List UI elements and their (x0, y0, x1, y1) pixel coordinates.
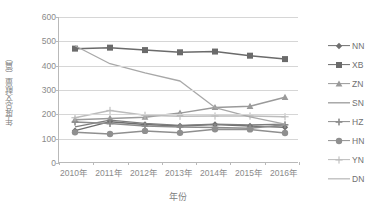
y-axis-tick-label: 400 (14, 62, 56, 70)
legend-item-yn[interactable]: YN (328, 150, 380, 169)
y-axis-tick-mark (56, 66, 59, 67)
legend-item-label: XB (350, 60, 363, 70)
data-point (106, 107, 113, 114)
legend-item-xb[interactable]: XB (328, 55, 380, 74)
x-axis-tick-label: 2010年 (60, 166, 88, 178)
legend: NNXBZNSNHZHNYNDN (328, 36, 380, 188)
x-axis-tick-label: 2014年 (200, 166, 228, 178)
data-point (247, 126, 253, 132)
gridline (59, 90, 298, 91)
data-point (212, 126, 218, 132)
legend-marker-icon (328, 135, 350, 147)
x-axis-tick-mark (93, 162, 94, 165)
data-point (282, 94, 289, 100)
line-chart: 年度总文献量（篇） 0100200300400500600 2010年2011年… (0, 0, 381, 218)
legend-marker-icon (328, 173, 350, 185)
x-axis-tick-mark (265, 162, 266, 165)
legend-marker-icon (328, 78, 350, 90)
legend-item-label: NN (350, 41, 364, 51)
data-point (177, 130, 183, 136)
legend-item-label: YN (350, 155, 364, 165)
legend-item-hn[interactable]: HN (328, 131, 380, 150)
legend-marker-icon (328, 40, 350, 52)
y-axis-tick-labels: 0100200300400500600 (14, 0, 56, 218)
data-point (107, 131, 113, 137)
data-point (212, 49, 218, 55)
x-axis-tick-label: 2012年 (130, 166, 158, 178)
x-axis-tick-label: 2011年 (95, 166, 122, 178)
x-axis-tick-label: 2015年 (235, 166, 263, 178)
legend-marker-icon (328, 116, 350, 128)
y-axis-tick-label: 500 (14, 37, 56, 45)
x-axis-tick-mark (128, 162, 129, 165)
data-point (282, 130, 288, 136)
legend-item-dn[interactable]: DN (328, 169, 380, 188)
x-axis-tick-mark (196, 162, 197, 165)
legend-item-sn[interactable]: SN (328, 93, 380, 112)
data-point (282, 56, 288, 62)
y-axis-tick-mark (56, 114, 59, 115)
data-point (142, 128, 148, 134)
y-axis-tick-label: 300 (14, 86, 56, 94)
y-axis-tick-label: 200 (14, 110, 56, 118)
y-axis-tick-mark (56, 90, 59, 91)
x-axis-tick-mark (59, 162, 60, 165)
x-axis-tick-mark (299, 162, 300, 165)
x-axis-title: 年份 (58, 190, 298, 203)
gridline (59, 41, 298, 42)
x-axis-title-text: 年份 (169, 192, 187, 202)
legend-item-zn[interactable]: ZN (328, 74, 380, 93)
legend-item-nn[interactable]: NN (328, 36, 380, 55)
data-point (142, 47, 148, 53)
legend-item-label: SN (350, 98, 364, 108)
gridline (59, 66, 298, 67)
data-point (72, 129, 78, 135)
gridline (59, 114, 298, 115)
data-point (177, 49, 183, 55)
y-axis-tick-mark (56, 139, 59, 140)
gridline (59, 139, 298, 140)
legend-item-label: HN (350, 136, 364, 146)
x-axis-tick-label: 2016年 (270, 166, 298, 178)
x-axis-tick-labels: 2010年2011年2012年2013年2014年2015年2016年 (58, 166, 298, 182)
x-axis-tick-mark (162, 162, 163, 165)
plot-area (58, 17, 298, 163)
legend-item-label: ZN (350, 79, 363, 89)
gridline (59, 17, 298, 18)
legend-marker-icon (328, 59, 350, 71)
x-axis-tick-mark (230, 162, 231, 165)
data-point (107, 45, 113, 51)
y-axis-tick-label: 0 (14, 159, 56, 167)
y-axis-tick-mark (56, 41, 59, 42)
series-xb (72, 45, 288, 62)
y-axis-tick-label: 600 (14, 13, 56, 21)
legend-item-hz[interactable]: HZ (328, 112, 380, 131)
legend-marker-icon (328, 97, 350, 109)
x-axis-tick-label: 2013年 (165, 166, 193, 178)
data-point (247, 53, 253, 59)
legend-item-label: HZ (350, 117, 363, 127)
y-axis-tick-mark (56, 17, 59, 18)
legend-marker-icon (328, 154, 350, 166)
legend-item-label: DN (350, 174, 364, 184)
y-axis-tick-label: 100 (14, 135, 56, 143)
